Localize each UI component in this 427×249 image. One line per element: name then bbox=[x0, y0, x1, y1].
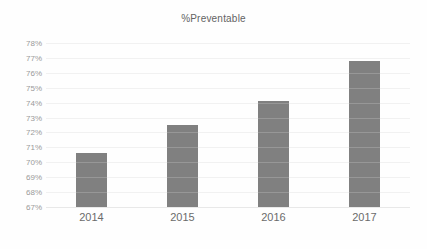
bar-gridline-overlay bbox=[349, 88, 380, 89]
gridline bbox=[46, 58, 410, 59]
bar-gridline-overlay bbox=[167, 147, 198, 148]
bar-gridline-overlay bbox=[349, 177, 380, 178]
bar-gridline-overlay bbox=[258, 147, 289, 148]
bar-gridline-overlay bbox=[258, 118, 289, 119]
y-axis-tick-label: 69% bbox=[18, 173, 42, 182]
bar-gridline-overlay bbox=[349, 103, 380, 104]
y-axis-tick-label: 70% bbox=[18, 158, 42, 167]
y-axis-tick-label: 78% bbox=[18, 39, 42, 48]
bar-gridline-overlay bbox=[167, 192, 198, 193]
bar-gridline-overlay bbox=[258, 103, 289, 104]
bar-chart: %Preventable 78%77%76%75%74%73%72%71%70%… bbox=[0, 0, 427, 249]
y-axis-tick-label: 67% bbox=[18, 203, 42, 212]
bar-gridline-overlay bbox=[258, 192, 289, 193]
bar-gridline-overlay bbox=[167, 177, 198, 178]
bar-gridline-overlay bbox=[76, 162, 107, 163]
y-axis-tick-label: 77% bbox=[18, 54, 42, 63]
y-axis: 78%77%76%75%74%73%72%71%70%69%68%67% bbox=[14, 43, 42, 207]
y-axis-tick-label: 74% bbox=[18, 99, 42, 108]
bar-2016[interactable] bbox=[258, 101, 289, 207]
chart-title: %Preventable bbox=[0, 13, 427, 24]
bar-gridline-overlay bbox=[258, 132, 289, 133]
bar-gridline-overlay bbox=[349, 73, 380, 74]
y-axis-tick-label: 73% bbox=[18, 114, 42, 123]
y-axis-tick-label: 76% bbox=[18, 69, 42, 78]
bar-gridline-overlay bbox=[258, 177, 289, 178]
y-axis-tick-label: 75% bbox=[18, 84, 42, 93]
bar-2014[interactable] bbox=[76, 153, 107, 207]
bar-gridline-overlay bbox=[349, 192, 380, 193]
bar-gridline-overlay bbox=[349, 162, 380, 163]
x-axis-tick-label-2017: 2017 bbox=[319, 211, 410, 223]
bar-gridline-overlay bbox=[349, 132, 380, 133]
bar-gridline-overlay bbox=[167, 162, 198, 163]
bar-gridline-overlay bbox=[76, 192, 107, 193]
y-axis-tick-label: 72% bbox=[18, 128, 42, 137]
bar-2015[interactable] bbox=[167, 125, 198, 207]
bar-gridline-overlay bbox=[349, 118, 380, 119]
x-axis: 2014201520162017 bbox=[46, 211, 410, 235]
bar-gridline-overlay bbox=[258, 162, 289, 163]
bar-2017[interactable] bbox=[349, 61, 380, 207]
bar-gridline-overlay bbox=[76, 177, 107, 178]
x-axis-tick-label-2014: 2014 bbox=[46, 211, 137, 223]
x-axis-tick-label-2015: 2015 bbox=[137, 211, 228, 223]
y-axis-tick-label: 68% bbox=[18, 188, 42, 197]
bar-gridline-overlay bbox=[349, 147, 380, 148]
y-axis-tick-label: 71% bbox=[18, 143, 42, 152]
plot-area bbox=[46, 43, 410, 207]
x-axis-tick-label-2016: 2016 bbox=[228, 211, 319, 223]
bar-gridline-overlay bbox=[167, 132, 198, 133]
gridline bbox=[46, 207, 410, 208]
gridline bbox=[46, 43, 410, 44]
